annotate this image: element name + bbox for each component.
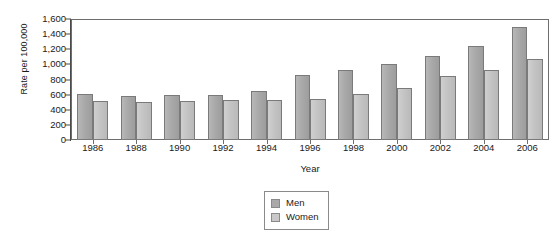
y-axis-tick-labels: 02004006008001,0001,2001,4001,600: [22, 19, 66, 140]
bar-women-1998: [353, 94, 369, 140]
bar-men-1986: [77, 94, 93, 140]
x-tick-label: 1994: [256, 143, 277, 153]
x-tick-label: 1992: [213, 143, 234, 153]
x-tick-label: 1988: [126, 143, 147, 153]
bar-women-1986: [93, 101, 109, 140]
bar-group: [338, 19, 369, 140]
legend-swatch-men-icon: [271, 199, 280, 208]
bar-men-1990: [164, 95, 180, 140]
bar-group: [425, 19, 456, 140]
legend-item-men: Men: [271, 196, 319, 210]
bar-women-2006: [527, 59, 543, 140]
legend-label-women: Women: [286, 212, 319, 222]
bar-group: [251, 19, 282, 140]
bar-women-2002: [440, 76, 456, 140]
bar-chart: Rate per 100,000 02004006008001,0001,200…: [0, 0, 556, 247]
bar-women-2000: [397, 88, 413, 140]
bar-men-1998: [338, 70, 354, 140]
bars-layer: [71, 19, 549, 140]
bar-women-2004: [484, 70, 500, 140]
bar-women-1996: [310, 99, 326, 140]
bar-men-1996: [295, 75, 311, 140]
bar-group: [512, 19, 543, 140]
y-tick-label: 1,200: [42, 45, 66, 55]
bar-group: [208, 19, 239, 140]
legend: Men Women: [264, 191, 329, 230]
bar-group: [164, 19, 195, 140]
bar-men-1992: [208, 95, 224, 140]
x-tick-label: 2002: [430, 143, 451, 153]
y-tick-label: 1,000: [42, 60, 66, 70]
x-tick-label: 2004: [473, 143, 494, 153]
y-tick-label: 200: [50, 120, 66, 130]
bar-group: [295, 19, 326, 140]
y-tick-label: 400: [50, 105, 66, 115]
bar-women-1994: [267, 100, 283, 140]
x-tick-label: 1990: [169, 143, 190, 153]
bar-group: [381, 19, 412, 140]
bar-group: [77, 19, 108, 140]
x-tick-label: 1986: [82, 143, 103, 153]
bar-men-2004: [468, 46, 484, 140]
y-tick-label: 600: [50, 90, 66, 100]
x-tick-label: 1996: [299, 143, 320, 153]
bar-group: [468, 19, 499, 140]
x-axis-title: Year: [71, 163, 549, 174]
x-tick-label: 1998: [343, 143, 364, 153]
y-tick-label: 1,600: [42, 14, 66, 24]
legend-swatch-women-icon: [271, 213, 280, 222]
bar-men-1988: [121, 96, 137, 140]
bar-women-1990: [180, 101, 196, 140]
x-axis-tick-labels: 1986198819901992199419961998200020022004…: [71, 143, 549, 157]
bar-women-1988: [136, 102, 152, 140]
y-tick-label: 1,400: [42, 29, 66, 39]
bar-men-2000: [381, 64, 397, 140]
bar-group: [121, 19, 152, 140]
bar-women-1992: [223, 100, 239, 140]
bar-men-2002: [425, 56, 441, 140]
bar-men-2006: [512, 27, 528, 140]
x-tick-label: 2000: [386, 143, 407, 153]
bar-men-1994: [251, 91, 267, 140]
y-tick-label: 800: [50, 75, 66, 85]
legend-item-women: Women: [271, 210, 319, 224]
x-tick-label: 2006: [517, 143, 538, 153]
legend-label-men: Men: [286, 198, 304, 208]
